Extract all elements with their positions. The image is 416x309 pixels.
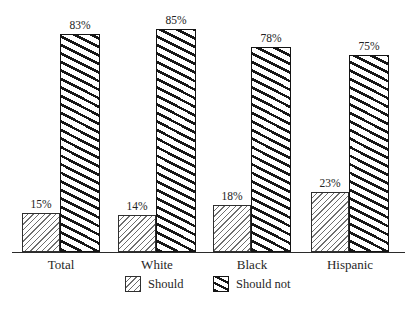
bar-should-hispanic (311, 192, 349, 252)
bar-should-not-total (60, 34, 100, 252)
category-label-hispanic: Hispanic (305, 257, 395, 272)
plot-area: 15%83%Total14%85%White18%78%Black23%75%H… (0, 0, 416, 309)
bar-should-not-hispanic (349, 55, 389, 252)
category-label-white: White (112, 257, 202, 272)
value-label-should-not-total: 83% (54, 18, 106, 32)
x-axis-baseline (12, 252, 405, 253)
value-label-should-hispanic: 23% (305, 176, 355, 190)
bar-should-white (118, 215, 156, 252)
value-label-should-not-white: 85% (150, 13, 202, 27)
value-label-should-black: 18% (207, 189, 257, 203)
value-label-should-not-hispanic: 75% (343, 39, 395, 53)
bar-should-total (22, 213, 60, 252)
category-label-total: Total (16, 257, 106, 272)
value-label-should-total: 15% (16, 197, 66, 211)
bar-chart: 15%83%Total14%85%White18%78%Black23%75%H… (0, 0, 416, 309)
bar-should-not-black (251, 47, 291, 252)
bar-should-not-white (156, 29, 196, 252)
value-label-should-not-black: 78% (245, 31, 297, 45)
bar-should-black (213, 205, 251, 252)
value-label-should-white: 14% (112, 199, 162, 213)
category-label-black: Black (207, 257, 297, 272)
